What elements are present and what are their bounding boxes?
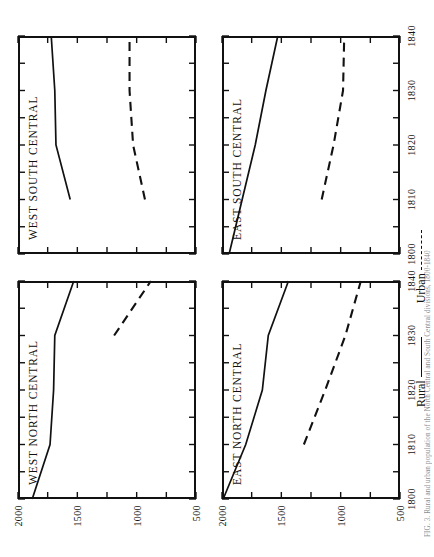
chart-panel-west-north-central: WEST NORTH CENTRAL: [18, 281, 196, 499]
series-line-urban: [114, 281, 151, 336]
plot-area: [222, 281, 400, 499]
plot-area: [18, 281, 196, 499]
x-axis-tick-label: 1800: [406, 488, 417, 510]
x-axis-tick-label: 1810: [406, 434, 417, 456]
x-axis-tick-label: 1830: [406, 80, 417, 102]
figure-caption: FIG. 3. Rural and urban population of th…: [424, 17, 434, 537]
y-axis-tick-label: 500: [395, 505, 406, 539]
series-line-rural: [51, 36, 70, 200]
chart-panel-west-south-central: WEST SOUTH CENTRAL: [18, 36, 196, 254]
x-axis-tick-label: 1840: [406, 25, 417, 47]
y-axis-tick-label: 1500: [276, 505, 287, 539]
series-line-rural: [229, 36, 278, 254]
x-axis-tick-label: 1810: [406, 189, 417, 211]
y-axis-tick-label: 1000: [335, 505, 346, 539]
series-line-urban: [304, 281, 361, 445]
plot-area: [18, 36, 196, 254]
series-line-rural: [32, 281, 74, 499]
series-line-urban: [322, 36, 345, 200]
legend-swatch-solid-line: [421, 337, 422, 377]
y-axis-tick-label: 2000: [13, 505, 24, 539]
y-axis-tick-label: 1000: [131, 505, 142, 539]
x-axis-tick-label: 1830: [406, 325, 417, 347]
chart-panel-east-north-central: EAST NORTH CENTRAL: [222, 281, 400, 499]
series-line-rural: [223, 281, 288, 499]
x-axis-tick-label: 1820: [406, 134, 417, 156]
y-axis-tick-label: 2000: [217, 505, 228, 539]
plot-area: [222, 36, 400, 254]
x-axis-tick-label: 1820: [406, 379, 417, 401]
series-line-urban: [130, 36, 145, 200]
x-axis-tick-label: 1840: [406, 270, 417, 292]
chart-panel-east-south-central: EAST SOUTH CENTRAL: [222, 36, 400, 254]
y-axis-tick-label: 500: [191, 505, 202, 539]
x-axis-tick-label: 1800: [406, 243, 417, 265]
legend-swatch-dashed-line: [421, 230, 422, 270]
y-axis-tick-label: 1500: [72, 505, 83, 539]
